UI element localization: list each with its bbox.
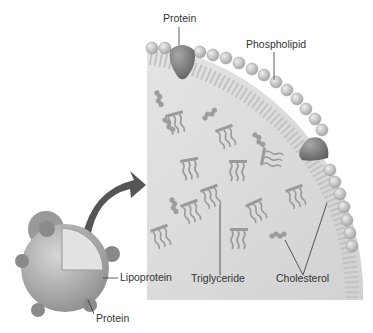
label-protein-bottom: Protein xyxy=(96,312,129,324)
label-triglyceride: Triglyceride xyxy=(191,272,245,284)
sphere-cutaway xyxy=(62,228,103,270)
cutaway-section xyxy=(146,42,363,300)
label-cholesterol: Cholesterol xyxy=(276,272,329,284)
label-lipoprotein: Lipoprotein xyxy=(120,271,172,283)
lipoprotein-sphere xyxy=(15,211,120,317)
label-protein-top: Protein xyxy=(163,12,196,24)
magnify-arrow xyxy=(82,171,146,239)
label-phospholipid: Phospholipid xyxy=(246,38,306,50)
